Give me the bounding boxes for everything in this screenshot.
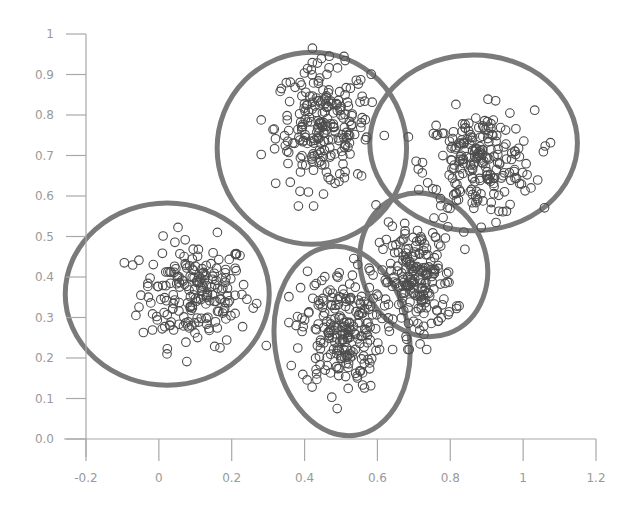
data-point (416, 340, 425, 349)
y-tick-label: 0.6 (35, 189, 54, 203)
data-point (299, 370, 308, 379)
data-point (333, 64, 342, 73)
y-tick-label: 0.5 (35, 230, 54, 244)
data-point (333, 404, 342, 413)
data-point (286, 178, 295, 187)
data-point (222, 336, 231, 345)
data-point (348, 271, 357, 280)
data-point (174, 223, 183, 232)
cluster-ellipses (65, 52, 577, 444)
data-point (149, 260, 158, 269)
data-point (183, 357, 192, 366)
data-point (132, 311, 141, 320)
data-point (213, 324, 222, 333)
data-point (310, 281, 319, 290)
data-point (309, 166, 318, 175)
data-point (239, 280, 248, 289)
data-point (520, 137, 529, 146)
data-point (216, 344, 225, 353)
data-point (303, 267, 312, 276)
data-point (445, 308, 454, 317)
data-point (270, 145, 279, 154)
data-point (207, 259, 216, 268)
data-point (296, 187, 305, 196)
data-point (440, 295, 449, 304)
data-point (500, 143, 509, 152)
data-point (128, 261, 137, 270)
y-tick-label: 0.9 (35, 68, 54, 82)
data-point (271, 179, 280, 188)
data-point (146, 274, 155, 283)
data-point (135, 303, 144, 312)
data-point (163, 350, 172, 359)
data-point (294, 202, 303, 211)
data-point (435, 240, 444, 249)
data-point (328, 393, 337, 402)
x-tick-label: 0.4 (295, 471, 314, 485)
data-point (344, 384, 353, 393)
data-point (120, 259, 129, 268)
data-point (257, 116, 266, 125)
data-point (496, 123, 505, 132)
data-point (470, 204, 479, 213)
data-point (502, 140, 511, 149)
data-point (182, 338, 191, 347)
data-point (530, 106, 539, 115)
data-point (418, 158, 427, 167)
data-point (212, 264, 221, 273)
data-point (506, 109, 515, 118)
x-tick-label: 1 (519, 471, 527, 485)
data-point (147, 299, 156, 308)
data-point (388, 345, 397, 354)
data-point (294, 344, 303, 353)
data-point (271, 135, 280, 144)
data-point (144, 293, 153, 302)
data-point (539, 147, 548, 156)
data-point (210, 342, 219, 351)
data-point (309, 202, 318, 211)
data-point (423, 179, 432, 188)
data-point (181, 236, 190, 245)
y-axis: 0.00.10.20.30.40.50.60.70.80.91 (35, 27, 86, 457)
x-tick-label: 0 (155, 471, 163, 485)
data-point (319, 190, 328, 199)
data-point (452, 100, 461, 109)
x-tick-label: -0.2 (74, 471, 97, 485)
data-point (522, 159, 531, 168)
data-point (326, 369, 335, 378)
data-point (430, 214, 439, 223)
data-point (492, 218, 501, 227)
y-tick-label: 0.3 (35, 311, 54, 325)
data-point (158, 249, 167, 258)
data-point (296, 283, 305, 292)
data-point (358, 92, 367, 101)
y-tick-label: 0.0 (35, 432, 54, 446)
cluster-4-ellipse (262, 237, 422, 444)
data-point (323, 288, 332, 297)
data-point (215, 255, 224, 264)
data-point (262, 341, 271, 350)
data-point (351, 345, 360, 354)
data-point (436, 242, 445, 251)
x-tick-label: 0.8 (441, 471, 460, 485)
data-point (381, 295, 390, 304)
data-point (135, 256, 144, 265)
scatter-chart: 0.00.10.20.30.40.50.60.70.80.91 -0.200.2… (0, 0, 631, 510)
data-point (171, 238, 180, 247)
y-tick-label: 0.1 (35, 392, 54, 406)
data-point (277, 84, 286, 93)
data-point (371, 325, 380, 334)
data-point (350, 254, 359, 263)
x-axis: -0.200.20.40.60.811.2 (64, 439, 606, 485)
y-tick-label: 1 (46, 27, 54, 41)
data-point (285, 292, 294, 301)
data-point (238, 322, 247, 331)
data-point (308, 383, 317, 392)
data-point (304, 188, 313, 197)
data-point (213, 228, 222, 237)
data-point (284, 159, 293, 168)
data-point (506, 200, 515, 209)
data-point (379, 245, 388, 254)
data-point (257, 150, 266, 159)
x-tick-label: 0.6 (368, 471, 387, 485)
